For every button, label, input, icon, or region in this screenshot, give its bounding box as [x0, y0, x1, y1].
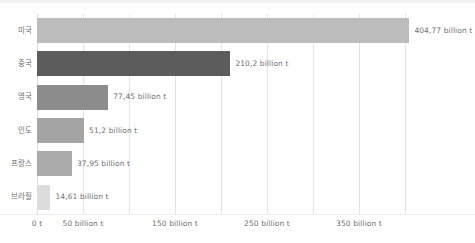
value-axis-tick-labels: 0 t50 billion t150 billion t250 billion … — [0, 219, 475, 235]
category-label: 브라질 — [0, 192, 32, 202]
x-tick-label: 150 billion t — [152, 219, 198, 228]
category-label: 인도 — [0, 126, 32, 136]
bar[interactable] — [37, 51, 230, 76]
bar[interactable] — [37, 18, 409, 43]
bar-row[interactable]: 14,61 billion t — [37, 181, 428, 214]
category-label: 중국 — [0, 59, 32, 69]
figure-bottom-rule — [0, 214, 475, 215]
bar-row[interactable]: 404,77 billion t — [37, 14, 428, 47]
x-tick-label: 50 billion t — [63, 219, 104, 228]
bar[interactable] — [37, 118, 84, 143]
x-tick-label: 350 billion t — [336, 219, 382, 228]
bar[interactable] — [37, 151, 72, 176]
bar-row[interactable]: 210,2 billion t — [37, 47, 428, 80]
bar-value-label: 37,95 billion t — [77, 159, 130, 168]
bar-value-label: 404,77 billion t — [414, 26, 472, 35]
category-label: 미국 — [0, 26, 32, 36]
x-tick-label: 250 billion t — [244, 219, 290, 228]
bar-row[interactable]: 51,2 billion t — [37, 114, 428, 147]
bar-value-label: 77,45 billion t — [113, 92, 166, 101]
bar-chart-figure: 미국중국영국인도프랑스브라질 404,77 billion t210,2 bil… — [0, 0, 475, 243]
bar-value-label: 51,2 billion t — [89, 126, 137, 135]
bar-row[interactable]: 37,95 billion t — [37, 147, 428, 180]
bar[interactable] — [37, 85, 108, 110]
figure-top-rule — [0, 0, 475, 3]
bar-value-label: 14,61 billion t — [55, 192, 108, 201]
plot-area: 404,77 billion t210,2 billion t77,45 bil… — [37, 14, 428, 214]
bar-row[interactable]: 77,45 billion t — [37, 81, 428, 114]
bar-value-label: 210,2 billion t — [235, 59, 288, 68]
category-axis-labels: 미국중국영국인도프랑스브라질 — [0, 14, 32, 214]
bar[interactable] — [37, 185, 50, 210]
x-tick-label: 0 t — [32, 219, 42, 228]
category-label: 프랑스 — [0, 159, 32, 169]
category-label: 영국 — [0, 92, 32, 102]
